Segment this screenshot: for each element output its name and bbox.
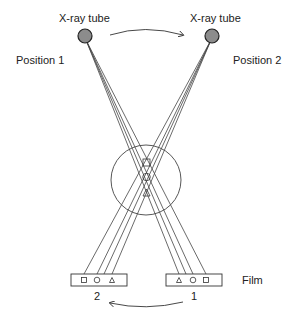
film-right-number: 1 [191,291,197,302]
beams-position-1 [86,40,206,274]
film-left [71,274,127,286]
film-right [166,274,222,286]
film-left-number: 2 [94,291,100,302]
beams-position-2 [84,40,211,274]
diagram-canvas [0,0,290,320]
tomography-diagram: X-ray tube X-ray tube Position 1 Positio… [0,0,290,320]
tube-motion-arrow [110,30,183,36]
xray-tube-left-icon [78,29,92,43]
position-1-label: Position 1 [16,55,64,66]
tube-right-label: X-ray tube [190,13,241,24]
xray-tube-right-icon [205,29,219,43]
position-2-label: Position 2 [233,55,281,66]
film-label: Film [242,275,263,286]
tube-left-label: X-ray tube [59,13,110,24]
film-motion-arrow [110,302,183,307]
